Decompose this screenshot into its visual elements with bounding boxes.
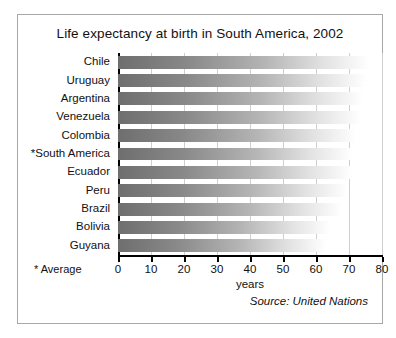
x-tick-label: 50 bbox=[270, 263, 296, 275]
bar-row bbox=[118, 239, 382, 252]
bar-row bbox=[118, 203, 382, 216]
x-tick-label: 0 bbox=[105, 263, 131, 275]
category-label: Colombia bbox=[61, 129, 110, 141]
bar bbox=[118, 203, 342, 216]
bar-row bbox=[118, 221, 382, 234]
x-tick-label: 10 bbox=[138, 263, 164, 275]
x-tick-label: 60 bbox=[303, 263, 329, 275]
bar bbox=[118, 111, 361, 124]
category-label: Bolivia bbox=[76, 220, 110, 232]
bar bbox=[118, 184, 347, 197]
x-tick bbox=[118, 257, 120, 262]
plot-area bbox=[118, 53, 382, 255]
gridline-80 bbox=[382, 53, 383, 255]
category-label: Brazil bbox=[81, 202, 110, 214]
bar bbox=[118, 56, 369, 69]
x-tick bbox=[151, 257, 153, 262]
bar bbox=[118, 92, 363, 105]
x-tick-label: 70 bbox=[336, 263, 362, 275]
x-tick bbox=[217, 257, 219, 262]
category-label: Guyana bbox=[70, 239, 110, 251]
x-tick-label: 30 bbox=[204, 263, 230, 275]
bar-row bbox=[118, 111, 382, 124]
footnote: * Average bbox=[34, 263, 82, 275]
bar-row bbox=[118, 166, 382, 179]
bar-row bbox=[118, 148, 382, 161]
bar bbox=[118, 239, 326, 252]
bar-series bbox=[118, 53, 382, 255]
bar-row bbox=[118, 56, 382, 69]
category-label: *South America bbox=[31, 147, 110, 159]
x-tick-label: 80 bbox=[369, 263, 395, 275]
chart-figure: Life expectancy at birth in South Americ… bbox=[17, 14, 383, 324]
x-tick-label: 40 bbox=[237, 263, 263, 275]
bar bbox=[118, 74, 366, 87]
category-label: Chile bbox=[84, 55, 110, 67]
category-label: Uruguay bbox=[67, 74, 110, 86]
x-tick bbox=[283, 257, 285, 262]
x-axis-title: years bbox=[118, 278, 382, 290]
bar bbox=[118, 166, 352, 179]
bar bbox=[118, 129, 356, 142]
category-label: Venezuela bbox=[56, 110, 110, 122]
x-tick-label: 20 bbox=[171, 263, 197, 275]
source-note: Source: United Nations bbox=[250, 295, 368, 307]
bar bbox=[118, 148, 352, 161]
x-tick bbox=[184, 257, 186, 262]
category-axis-labels: ChileUruguayArgentinaVenezuelaColombia*S… bbox=[18, 53, 115, 255]
x-tick bbox=[349, 257, 351, 262]
bar bbox=[118, 221, 330, 234]
x-tick bbox=[382, 257, 384, 262]
bar-row bbox=[118, 74, 382, 87]
x-tick bbox=[250, 257, 252, 262]
bar-row bbox=[118, 129, 382, 142]
category-label: Ecuador bbox=[67, 165, 110, 177]
bar-row bbox=[118, 184, 382, 197]
category-label: Peru bbox=[86, 184, 110, 196]
chart-title: Life expectancy at birth in South Americ… bbox=[18, 26, 382, 41]
category-label: Argentina bbox=[61, 92, 110, 104]
bar-row bbox=[118, 92, 382, 105]
x-tick bbox=[316, 257, 318, 262]
